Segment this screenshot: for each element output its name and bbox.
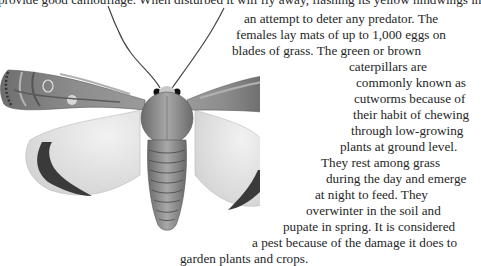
text-line: cutworms because of <box>354 91 465 107</box>
moth-icon <box>0 0 260 266</box>
text-line: their habit of chewing <box>353 107 469 123</box>
text-line: at night to feed. They <box>315 187 428 203</box>
text-line: a pest because of the damage it does to <box>252 235 457 251</box>
text-line: caterpillars are <box>349 59 427 75</box>
text-line: provide good camouflage. When disturbed … <box>0 0 481 8</box>
text-line: commonly known as <box>356 75 466 91</box>
text-line: during the day and emerge <box>326 171 466 187</box>
text-line: pupate in spring. It is considered <box>283 219 455 235</box>
text-line: plants at ground level. <box>340 139 457 155</box>
text-line: garden plants and crops. <box>180 251 308 266</box>
text-line: females lay mats of up to 1,000 eggs on <box>236 27 446 43</box>
text-line: blades of grass. The green or brown <box>232 43 421 59</box>
text-line: They rest among grass <box>321 155 440 171</box>
text-line: overwinter in the soil and <box>306 203 441 219</box>
text-line: through low-growing <box>351 123 463 139</box>
text-line: an attempt to deter any predator. The <box>244 11 438 27</box>
